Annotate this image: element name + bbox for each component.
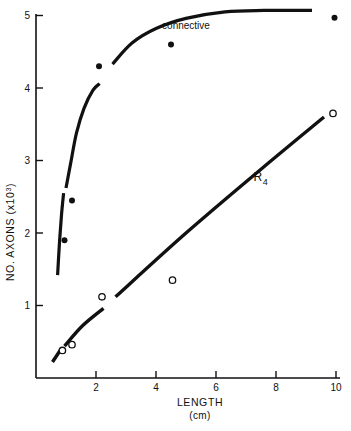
- y-tick-label-1: 1: [24, 300, 30, 311]
- connective-label: connective: [162, 20, 210, 31]
- curve-connective-seg2: [66, 84, 100, 188]
- curve-r4-seg3: [116, 117, 325, 297]
- series-r4: [53, 110, 337, 362]
- curve-connective-seg1: [58, 193, 64, 275]
- series-group: [53, 10, 338, 362]
- figure-container: 12345246810 connectiveR4LENGTH(cm)NO. AX…: [0, 0, 351, 431]
- x-tick-label-2: 2: [93, 382, 99, 393]
- data-point-r4-5: [330, 110, 336, 116]
- data-point-r4-3: [99, 294, 105, 300]
- data-point-r4-4: [169, 277, 175, 283]
- curve-connective-seg3: [113, 10, 313, 64]
- curve-r4-seg2: [65, 308, 104, 346]
- data-point-connective-3: [96, 63, 102, 69]
- x-tick-label-8: 8: [273, 382, 279, 393]
- x-axis-units: (cm): [189, 410, 211, 421]
- data-point-connective-1: [62, 237, 68, 243]
- x-tick-label-6: 6: [213, 382, 219, 393]
- y-axis-title: NO. AXONS (x103): [4, 183, 16, 281]
- data-point-connective-5: [332, 15, 338, 21]
- y-tick-label-3: 3: [24, 155, 30, 166]
- y-tick-label-2: 2: [24, 228, 30, 239]
- y-tick-label-5: 5: [24, 10, 30, 21]
- x-tick-label-10: 10: [330, 382, 342, 393]
- x-tick-label-4: 4: [153, 382, 159, 393]
- data-point-connective-4: [168, 42, 174, 48]
- y-axis-units-close: ): [4, 183, 16, 187]
- r4-label-subscript: 4: [263, 177, 268, 187]
- chart-plot: 12345246810 connectiveR4LENGTH(cm)NO. AX…: [0, 0, 351, 431]
- data-point-connective-2: [69, 197, 75, 203]
- data-point-r4-1: [59, 347, 65, 353]
- y-tick-label-4: 4: [24, 83, 30, 94]
- r4-label: R4: [254, 170, 268, 187]
- data-point-r4-2: [69, 341, 75, 347]
- labels-group: connectiveR4LENGTH(cm)NO. AXONS (x103): [4, 20, 268, 421]
- x-axis-title: LENGTH: [177, 396, 223, 408]
